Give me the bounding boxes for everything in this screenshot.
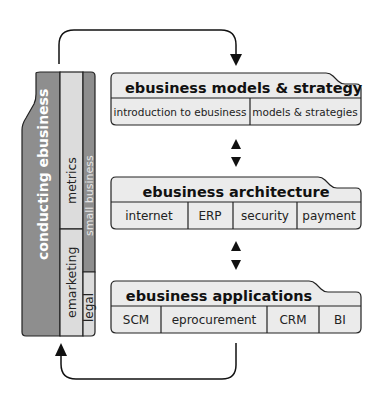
- box-title: ebusiness applications: [126, 288, 312, 304]
- label-conducting-ebusiness: conducting ebusiness: [35, 89, 51, 260]
- box-title: ebusiness architecture: [142, 184, 329, 200]
- ebusiness-diagram: conducting ebusiness metrics emarketing …: [0, 0, 381, 403]
- cell-eprocurement: eprocurement: [172, 313, 257, 327]
- arrow-down-icon: [230, 54, 242, 66]
- label-small-business: small business: [83, 155, 96, 236]
- cell-payment: payment: [302, 209, 356, 223]
- cell-scm: SCM: [123, 313, 149, 327]
- cell-internet: internet: [125, 209, 173, 223]
- left-block: conducting ebusiness metrics emarketing …: [22, 72, 96, 336]
- arrow-up-icon: [231, 241, 241, 251]
- cell-bi: BI: [334, 313, 346, 327]
- cell-crm: CRM: [279, 313, 306, 327]
- arrow-up-icon: [231, 139, 241, 149]
- box-title: ebusiness models & strategy: [125, 80, 363, 96]
- top-flow-arrow: [59, 30, 242, 66]
- cell-introduction-to-ebusiness: introduction to ebusiness: [114, 106, 247, 118]
- bottom-flow-arrow: [55, 343, 236, 379]
- label-metrics: metrics: [64, 157, 79, 204]
- box-applications: ebusiness applications SCM eprocurement …: [111, 281, 361, 333]
- box-models-strategy: ebusiness models & strategy introduction…: [111, 73, 363, 125]
- label-emarketing: emarketing: [64, 247, 79, 318]
- arrow-up-icon: [55, 343, 67, 356]
- arrow-down-icon: [231, 157, 241, 167]
- cell-erp: ERP: [198, 209, 221, 223]
- cell-metrics: [60, 72, 83, 229]
- box-architecture: ebusiness architecture internet ERP secu…: [111, 177, 361, 229]
- arrow-down-icon: [231, 260, 241, 270]
- cell-models-strategies: models & strategies: [252, 106, 357, 118]
- cell-security: security: [241, 209, 289, 223]
- label-legal: legal: [82, 293, 96, 322]
